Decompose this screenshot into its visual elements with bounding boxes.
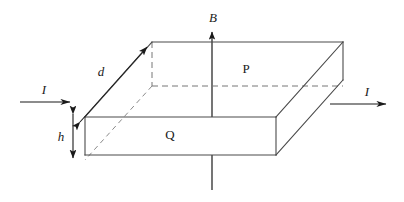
front-face-overpaint-shape bbox=[85, 117, 276, 155]
current-in-group: I bbox=[20, 82, 70, 102]
current-out-label: I bbox=[364, 84, 370, 99]
slab-diagram-canvas: I I B d h P Q bbox=[0, 0, 404, 202]
current-out-group: I bbox=[330, 84, 386, 104]
magnetic-field-label: B bbox=[209, 10, 217, 25]
current-in-label: I bbox=[41, 82, 47, 97]
height-dimension-group: h bbox=[58, 114, 73, 158]
height-label: h bbox=[58, 129, 65, 144]
front-face-label: Q bbox=[165, 127, 175, 142]
depth-label: d bbox=[98, 64, 105, 79]
physics-diagram-figure: I I B d h P Q bbox=[0, 0, 404, 202]
top-face-label: P bbox=[242, 61, 249, 76]
